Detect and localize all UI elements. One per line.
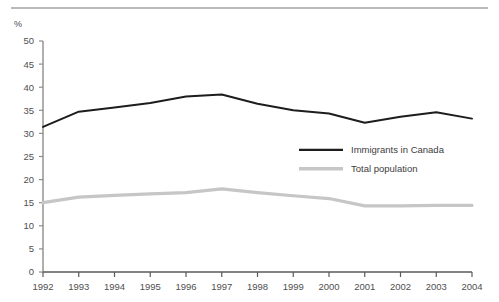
y-axis-tick-label: 40 [23, 82, 34, 93]
line-chart-plot: 0510152025303540455019921993199419951996… [0, 0, 499, 302]
legend-label-2: Total population [351, 163, 418, 174]
legend-label-1: Immigrants in Canada [351, 144, 445, 155]
x-axis-tick-label: 1997 [211, 281, 232, 292]
x-axis-tick-label: 1996 [175, 281, 196, 292]
y-axis-tick-label: 50 [23, 35, 34, 46]
x-axis-tick-label: 1992 [32, 281, 53, 292]
y-axis-tick-label: 30 [23, 128, 34, 139]
series-line-immigrants-in-canada [43, 95, 472, 127]
x-axis-tick-label: 2000 [318, 281, 339, 292]
x-axis-tick-label: 2004 [461, 281, 482, 292]
x-axis-tick-label: 2003 [426, 281, 447, 292]
y-axis-tick-label: 35 [23, 105, 34, 116]
x-axis-tick-label: 1993 [68, 281, 89, 292]
y-axis-tick-label: 10 [23, 220, 34, 231]
series-line-total-population [43, 189, 472, 206]
y-axis-tick-label: 20 [23, 174, 34, 185]
y-axis-tick-label: 15 [23, 197, 34, 208]
x-axis-tick-label: 1994 [104, 281, 125, 292]
y-axis-tick-label: 5 [29, 243, 34, 254]
x-axis-tick-label: 2002 [390, 281, 411, 292]
chart-container: % 05101520253035404550199219931994199519… [0, 0, 499, 302]
y-axis-tick-label: 0 [29, 266, 34, 277]
x-axis-tick-label: 1995 [140, 281, 161, 292]
x-axis-tick-label: 2001 [354, 281, 375, 292]
x-axis-tick-label: 1999 [283, 281, 304, 292]
y-axis-tick-label: 45 [23, 59, 34, 70]
y-axis-tick-label: 25 [23, 151, 34, 162]
x-axis-tick-label: 1998 [247, 281, 268, 292]
